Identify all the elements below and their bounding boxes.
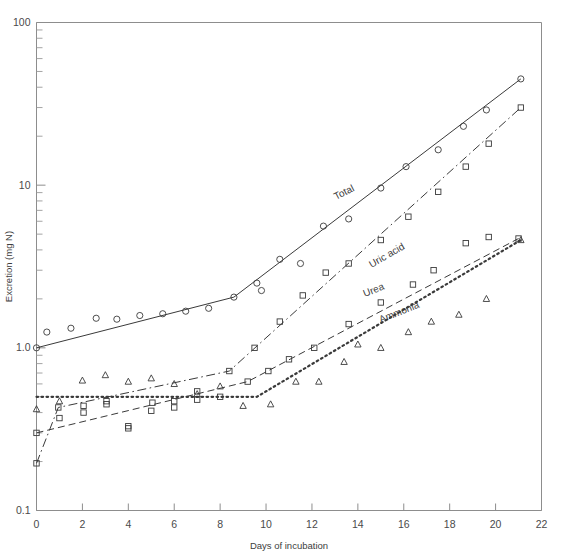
data-point: [428, 318, 434, 324]
data-point: [483, 107, 489, 113]
chart-figure: 0.11.0101000246810121416182022 TotalUric…: [0, 0, 581, 558]
x-tick-label: 18: [444, 518, 456, 530]
data-point: [126, 423, 131, 428]
x-tick-label: 16: [398, 518, 410, 530]
data-point: [456, 311, 462, 317]
x-tick-label: 8: [217, 518, 223, 530]
data-point: [56, 398, 62, 404]
data-point: [405, 329, 411, 335]
series-label-ammonia: Ammonia: [377, 299, 421, 325]
data-point: [406, 214, 411, 219]
data-point: [125, 378, 131, 384]
data-point: [435, 147, 441, 153]
data-point: [518, 76, 524, 82]
data-point: [483, 295, 489, 301]
data-point: [114, 316, 120, 322]
series-label-uric-acid: Uric acid: [367, 241, 406, 270]
data-point: [149, 408, 154, 413]
data-point: [410, 282, 415, 287]
data-point: [460, 123, 466, 129]
data-point: [316, 378, 322, 384]
y-tick-label: 1.0: [16, 341, 31, 353]
data-point: [293, 378, 299, 384]
x-axis-title: Days of incubation: [250, 540, 328, 551]
series-label-urea: Urea: [361, 280, 386, 298]
x-tick-label: 20: [490, 518, 502, 530]
data-point: [172, 405, 177, 410]
data-point: [346, 216, 352, 222]
series-label-total: Total: [332, 182, 356, 201]
chart-canvas: 0.11.0101000246810121416182022 TotalUric…: [0, 0, 581, 558]
data-point: [300, 293, 305, 298]
data-point: [126, 426, 131, 431]
data-point: [463, 164, 468, 169]
data-point: [518, 105, 523, 110]
data-series-group: [33, 76, 524, 466]
data-point: [277, 256, 283, 262]
data-point: [206, 305, 212, 311]
data-point: [79, 377, 85, 383]
data-point: [44, 329, 50, 335]
data-point: [81, 403, 86, 408]
data-point: [102, 372, 108, 378]
x-tick-label: 22: [536, 518, 548, 530]
data-point: [378, 300, 383, 305]
x-tick-label: 10: [260, 518, 272, 530]
data-point: [57, 415, 62, 420]
data-point: [486, 141, 491, 146]
x-tick-label: 0: [34, 518, 40, 530]
series-uric-acid: [34, 105, 524, 466]
y-tick-label: 10: [19, 179, 31, 191]
data-point: [81, 410, 86, 415]
data-point: [267, 401, 273, 407]
data-point: [137, 312, 143, 318]
data-point: [68, 325, 74, 331]
data-point: [258, 287, 264, 293]
x-tick-label: 2: [79, 518, 85, 530]
data-point: [346, 321, 351, 326]
data-point: [355, 341, 361, 347]
x-tick-label: 12: [306, 518, 318, 530]
data-point: [93, 315, 99, 321]
data-point: [378, 237, 383, 242]
series-total: [33, 76, 524, 351]
data-point: [160, 311, 166, 317]
data-point: [148, 375, 154, 381]
data-point: [254, 280, 260, 286]
y-tick-label: 100: [13, 16, 31, 28]
data-point: [320, 223, 326, 229]
x-tick-label: 14: [352, 518, 364, 530]
data-point: [486, 234, 491, 239]
data-point: [463, 240, 468, 245]
data-point: [378, 344, 384, 350]
trend-line: [37, 79, 521, 348]
x-tick-label: 6: [171, 518, 177, 530]
data-point: [431, 268, 436, 273]
series-labels-group: TotalUric acidUreaAmmonia: [332, 182, 421, 324]
data-point: [341, 358, 347, 364]
x-tick-label: 4: [125, 518, 131, 530]
trend-line: [37, 108, 521, 464]
data-point: [323, 270, 328, 275]
data-point: [297, 260, 303, 266]
data-point: [240, 402, 246, 408]
y-tick-label: 0.1: [16, 504, 31, 516]
data-point: [436, 189, 441, 194]
y-axis-title: Excretion (mg N): [3, 231, 14, 302]
